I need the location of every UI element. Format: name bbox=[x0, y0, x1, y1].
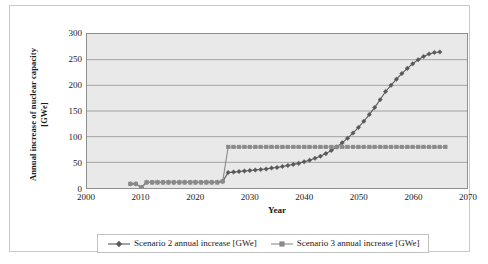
marker-diamond bbox=[307, 158, 312, 163]
marker-square bbox=[129, 182, 133, 186]
marker-square bbox=[167, 180, 171, 184]
marker-square bbox=[243, 145, 247, 149]
marker-diamond bbox=[296, 161, 301, 166]
y-tick-label: 50 bbox=[38, 159, 82, 168]
marker-diamond bbox=[432, 50, 437, 55]
marker-square bbox=[291, 145, 295, 149]
marker-square bbox=[346, 145, 350, 149]
marker-square bbox=[183, 180, 187, 184]
plot-svg bbox=[87, 34, 467, 188]
marker-diamond bbox=[427, 52, 432, 57]
x-tick-label: 2050 bbox=[336, 193, 382, 202]
marker-diamond bbox=[421, 54, 426, 59]
marker-square bbox=[329, 145, 333, 149]
marker-square bbox=[422, 145, 426, 149]
marker-square bbox=[188, 180, 192, 184]
marker-square bbox=[389, 145, 393, 149]
marker-diamond bbox=[248, 168, 253, 173]
marker-square bbox=[215, 180, 219, 184]
marker-square bbox=[248, 145, 252, 149]
legend-label: Scenario 3 annual increase [GWe] bbox=[297, 239, 420, 248]
marker-square bbox=[367, 145, 371, 149]
figure-frame: Annual increase of nuclear capacity [GWe… bbox=[9, 5, 470, 252]
series-1 bbox=[128, 50, 442, 188]
legend-marker-diamond-icon bbox=[107, 239, 131, 249]
y-tick-label: 300 bbox=[38, 29, 82, 38]
legend-entry-1: Scenario 2 annual increase [GWe] bbox=[107, 239, 257, 249]
marker-square bbox=[172, 180, 176, 184]
marker-square bbox=[275, 145, 279, 149]
marker-square bbox=[400, 145, 404, 149]
x-axis-tick-labels: 20002010202020302040205020602070 bbox=[86, 193, 468, 205]
x-tick-label: 2040 bbox=[281, 193, 327, 202]
marker-diamond bbox=[258, 167, 263, 172]
marker-diamond bbox=[237, 169, 242, 174]
marker-diamond bbox=[286, 163, 291, 168]
marker-square bbox=[253, 145, 257, 149]
marker-diamond bbox=[269, 166, 274, 171]
y-axis-tick-labels: 050100150200250300 bbox=[36, 33, 82, 189]
marker-square bbox=[340, 145, 344, 149]
marker-square bbox=[161, 180, 165, 184]
marker-diamond bbox=[318, 154, 323, 159]
marker-diamond bbox=[324, 151, 329, 156]
marker-square bbox=[373, 145, 377, 149]
marker-square bbox=[313, 145, 317, 149]
marker-diamond bbox=[291, 162, 296, 167]
marker-square bbox=[199, 180, 203, 184]
marker-square bbox=[351, 145, 355, 149]
marker-square bbox=[226, 145, 230, 149]
marker-diamond bbox=[313, 156, 318, 161]
marker-square bbox=[357, 145, 361, 149]
marker-diamond bbox=[302, 160, 307, 165]
marker-square bbox=[139, 186, 143, 188]
marker-square bbox=[384, 145, 388, 149]
marker-square bbox=[270, 145, 274, 149]
marker-square bbox=[156, 180, 160, 184]
y-tick-label: 250 bbox=[38, 55, 82, 64]
marker-square bbox=[264, 145, 268, 149]
marker-square bbox=[259, 145, 263, 149]
marker-square bbox=[177, 180, 181, 184]
marker-square bbox=[438, 145, 442, 149]
y-tick-label: 150 bbox=[38, 107, 82, 116]
marker-square bbox=[150, 180, 154, 184]
chart-legend: Scenario 2 annual increase [GWe]Scenario… bbox=[97, 234, 429, 253]
marker-square bbox=[210, 180, 214, 184]
marker-square bbox=[416, 145, 420, 149]
x-tick-label: 2070 bbox=[445, 193, 488, 202]
marker-square bbox=[221, 179, 225, 183]
legend-entry-2: Scenario 3 annual increase [GWe] bbox=[270, 239, 420, 249]
marker-diamond bbox=[242, 169, 247, 174]
marker-square bbox=[319, 145, 323, 149]
marker-diamond bbox=[438, 50, 443, 55]
x-axis-title: Year bbox=[86, 205, 468, 215]
marker-diamond bbox=[275, 165, 280, 170]
marker-square bbox=[194, 180, 198, 184]
marker-diamond bbox=[253, 168, 258, 173]
marker-square bbox=[362, 145, 366, 149]
marker-square bbox=[335, 145, 339, 149]
marker-square bbox=[237, 145, 241, 149]
marker-diamond bbox=[231, 170, 236, 175]
marker-square bbox=[405, 145, 409, 149]
marker-square bbox=[443, 145, 447, 149]
legend-marker-square-icon bbox=[270, 239, 294, 249]
y-tick-label: 100 bbox=[38, 133, 82, 142]
plot-area bbox=[86, 33, 468, 189]
marker-square bbox=[308, 145, 312, 149]
marker-square bbox=[134, 182, 138, 186]
x-tick-label: 2030 bbox=[227, 193, 273, 202]
x-tick-label: 2060 bbox=[390, 193, 436, 202]
x-tick-label: 2010 bbox=[118, 193, 164, 202]
x-tick-label: 2000 bbox=[63, 193, 109, 202]
series-line bbox=[130, 52, 439, 188]
legend-label: Scenario 2 annual increase [GWe] bbox=[134, 239, 257, 248]
marker-square bbox=[286, 145, 290, 149]
marker-square bbox=[324, 145, 328, 149]
marker-square bbox=[281, 145, 285, 149]
marker-square bbox=[433, 145, 437, 149]
marker-square bbox=[145, 180, 149, 184]
marker-square bbox=[302, 145, 306, 149]
x-tick-label: 2020 bbox=[172, 193, 218, 202]
